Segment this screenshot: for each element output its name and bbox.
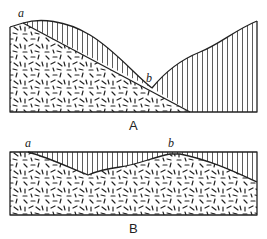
- diagram-canvas: a b A a b B: [0, 0, 267, 239]
- label-a-bottom: a: [25, 136, 31, 150]
- panel-b: a b B: [10, 136, 257, 236]
- label-b-bottom: b: [168, 136, 174, 150]
- panel-a: a b A: [10, 6, 257, 133]
- caption-b: B: [129, 221, 138, 236]
- label-a-top: a: [18, 6, 24, 20]
- panel-a-hatched-right: [152, 21, 257, 112]
- label-b-top: b: [146, 71, 152, 85]
- panel-a-speckled-wedge: [10, 23, 190, 112]
- caption-a: A: [129, 118, 138, 133]
